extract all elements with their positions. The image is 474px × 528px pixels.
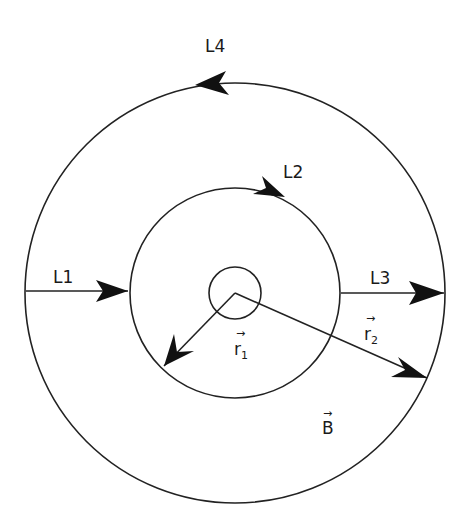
- l2-label: L2: [283, 162, 303, 182]
- r2-label: r2: [364, 324, 378, 347]
- r2-vector: [235, 293, 427, 378]
- r1-vector-mark: →: [236, 327, 245, 340]
- l1-label: L1: [53, 267, 73, 287]
- l4-label: L4: [205, 36, 225, 56]
- l2-arrow-icon: [253, 176, 285, 197]
- ampere-loop-diagram: L1 L3 L2 L4 r1 → r2 → B →: [0, 0, 474, 528]
- r2-vector-mark: →: [366, 312, 375, 325]
- b-vector-mark: →: [323, 407, 332, 420]
- r1-label: r1: [234, 339, 248, 362]
- r2-arrow-icon: [391, 357, 427, 378]
- b-field-label: B: [322, 418, 334, 438]
- l3-label: L3: [370, 268, 390, 288]
